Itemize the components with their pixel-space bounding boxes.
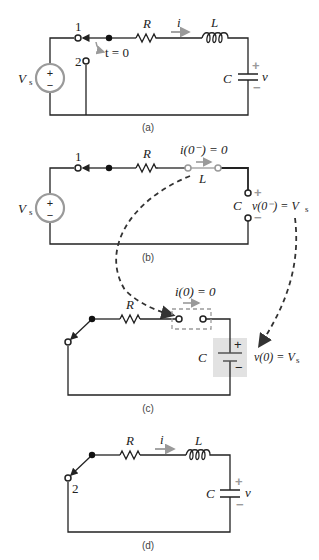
switch-pivot-icon bbox=[106, 35, 112, 41]
source-label: V bbox=[18, 71, 28, 86]
inductor-terminal-left-icon bbox=[185, 165, 191, 171]
terminal-1-icon bbox=[75, 165, 81, 171]
caption-a: (a) bbox=[142, 122, 154, 133]
caption-b: (b) bbox=[142, 252, 154, 263]
caption-d: (d) bbox=[142, 540, 154, 551]
current-label: i bbox=[177, 15, 181, 30]
cap-voltage-sub: s bbox=[296, 355, 300, 365]
resistor-label: R bbox=[125, 433, 134, 448]
cap-voltage-eq-label: v(0) = V bbox=[254, 350, 296, 364]
terminal-2-icon bbox=[65, 475, 71, 481]
inductor-terminal-right-icon bbox=[215, 165, 221, 171]
circuit-figure: + − V s 1 2 t = 0 R i L C v + − (a) bbox=[0, 0, 319, 560]
terminal-2-label: 2 bbox=[72, 481, 79, 496]
wire-a-left-top bbox=[50, 38, 74, 64]
terminal-1-icon bbox=[75, 35, 81, 41]
source-label: V bbox=[18, 201, 28, 216]
capacitor-transfer-arrow-icon bbox=[260, 218, 296, 345]
resistor-label: R bbox=[142, 16, 151, 31]
terminal-2-icon bbox=[83, 58, 89, 64]
current-eq-label: i(0) = 0 bbox=[175, 284, 216, 299]
cap-voltage-label: v bbox=[262, 69, 268, 84]
source-minus: − bbox=[47, 209, 53, 221]
resistor-label: R bbox=[142, 146, 151, 161]
source-plus: + bbox=[47, 197, 53, 209]
panel-d: 2 R i L C v + − (d) bbox=[65, 432, 251, 551]
wire-a-l-c bbox=[232, 38, 248, 74]
cap-minus: − bbox=[236, 497, 244, 512]
cap-plus: + bbox=[254, 185, 262, 200]
capacitor-icon bbox=[220, 490, 240, 497]
wire-c-terminal-c bbox=[206, 319, 230, 338]
panel-b: + − V s 1 R i(0⁻) = 0 L + − C v(0⁻) = V … bbox=[18, 142, 309, 263]
switch-blade bbox=[71, 457, 90, 475]
panel-c: R i(0) = 0 + − C v(0) = V s (c) bbox=[65, 284, 300, 414]
source-sub: s bbox=[29, 207, 33, 217]
terminal-1-label: 1 bbox=[75, 149, 82, 164]
cap-minus: − bbox=[253, 80, 261, 95]
source-plus: + bbox=[47, 67, 53, 79]
open-terminal-right-icon bbox=[200, 316, 206, 322]
resistor-label: R bbox=[125, 297, 134, 312]
cap-voltage-label: v bbox=[245, 485, 251, 500]
terminal-1-label: 1 bbox=[75, 19, 82, 34]
capacitor-label: C bbox=[233, 198, 242, 213]
wire-d-l-c bbox=[214, 455, 230, 490]
resistor-icon bbox=[120, 451, 140, 459]
panel-a: + − V s 1 2 t = 0 R i L C v + − (a) bbox=[18, 15, 268, 133]
switch-motion-arrow-icon bbox=[96, 42, 104, 52]
wire-b-bottom bbox=[50, 221, 248, 244]
open-terminal-left-icon bbox=[176, 316, 182, 322]
inductor-label: L bbox=[198, 171, 206, 186]
cap-plus: + bbox=[235, 474, 243, 489]
cap-plus: + bbox=[252, 58, 260, 73]
cap-plus: + bbox=[234, 337, 242, 352]
switch-pivot-icon bbox=[106, 165, 112, 171]
inductor-icon bbox=[186, 450, 214, 460]
current-eq-label: i(0⁻) = 0 bbox=[180, 142, 228, 157]
capacitor-label: C bbox=[223, 71, 232, 86]
wire-b-l-c bbox=[221, 168, 248, 190]
switch-blade bbox=[71, 321, 90, 339]
source-sub: s bbox=[29, 77, 33, 87]
current-label: i bbox=[160, 432, 164, 447]
cap-terminal-top-icon bbox=[245, 190, 251, 196]
inductor-label: L bbox=[210, 15, 218, 30]
resistor-icon bbox=[136, 164, 158, 172]
wire-a-bottom bbox=[50, 80, 248, 115]
capacitor-label: C bbox=[198, 350, 207, 365]
resistor-icon bbox=[136, 34, 158, 42]
cap-minus: − bbox=[235, 360, 243, 375]
terminal-2-label: 2 bbox=[75, 54, 82, 69]
inductor-label: L bbox=[194, 433, 202, 448]
source-minus: − bbox=[47, 79, 53, 91]
terminal-2-icon bbox=[65, 339, 71, 345]
cap-terminal-bottom-icon bbox=[245, 215, 251, 221]
cap-voltage-sub: s bbox=[305, 204, 309, 214]
switch-time-label: t = 0 bbox=[105, 45, 129, 60]
cap-voltage-eq-label: v(0⁻) = V bbox=[252, 199, 300, 213]
capacitor-label: C bbox=[206, 486, 215, 501]
caption-c: (c) bbox=[142, 403, 154, 414]
wire-b-left-top bbox=[50, 168, 74, 194]
resistor-icon bbox=[120, 315, 140, 323]
inductor-icon bbox=[202, 33, 232, 43]
